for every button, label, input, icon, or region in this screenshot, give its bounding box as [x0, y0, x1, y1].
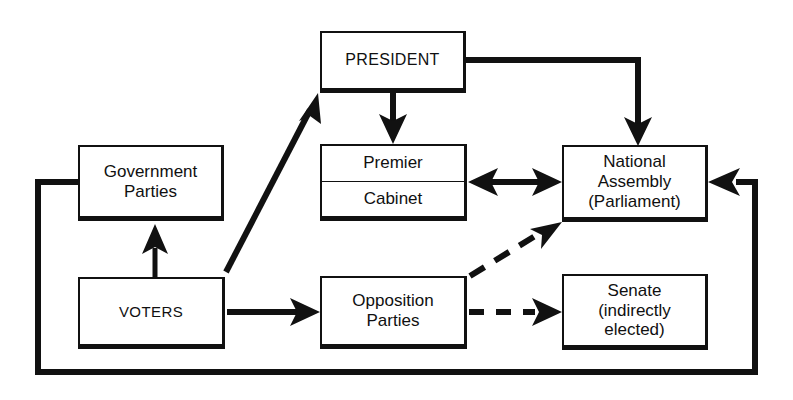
- edge-opposition-to-senate: [469, 298, 562, 326]
- node-cabinet: Cabinet: [322, 182, 464, 217]
- edge-president-to-assembly: [466, 60, 652, 146]
- node-government-parties: Government Parties: [78, 145, 224, 221]
- edge-president-to-premier: [379, 93, 407, 144]
- edge-voters-to-president: [226, 93, 321, 272]
- node-senate: Senate (indirectly elected): [562, 274, 708, 350]
- node-opposition-parties-label: Opposition Parties: [322, 291, 464, 330]
- node-senate-label: Senate (indirectly elected): [564, 281, 705, 340]
- diagram-canvas: PRESIDENT Government Parties Premier Cab…: [0, 0, 793, 400]
- edge-voters-to-government: [142, 224, 168, 277]
- edge-voters-to-opposition: [227, 298, 320, 326]
- node-government-parties-label: Government Parties: [80, 162, 221, 201]
- node-president: PRESIDENT: [320, 31, 466, 93]
- node-voters-label: VOTERS: [80, 303, 222, 320]
- node-cabinet-label: Cabinet: [361, 189, 426, 209]
- edge-cabinet-assembly: [468, 168, 562, 196]
- node-national-assembly: National Assembly (Parliament): [562, 145, 708, 222]
- edge-opposition-to-assembly: [470, 222, 562, 276]
- node-national-assembly-label: National Assembly (Parliament): [564, 152, 705, 211]
- node-premier: Premier: [322, 146, 464, 182]
- node-premier-label: Premier: [360, 153, 426, 173]
- node-premier-cabinet: Premier Cabinet: [320, 144, 467, 221]
- node-voters: VOTERS: [78, 277, 225, 349]
- node-president-label: PRESIDENT: [322, 51, 463, 70]
- node-opposition-parties: Opposition Parties: [320, 276, 467, 349]
